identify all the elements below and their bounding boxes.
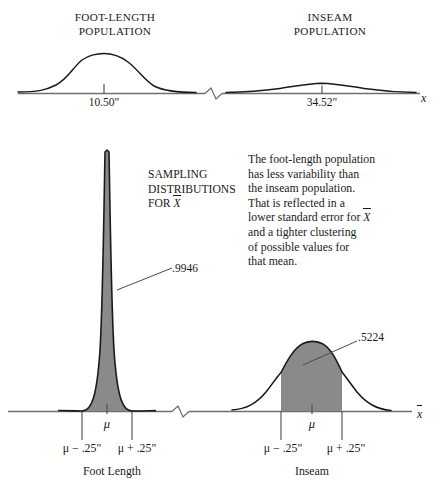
foot-length-population-mean-label: 10.50" <box>74 96 134 108</box>
foot-length-caption: Foot Length <box>62 464 162 479</box>
left-probability-leader-line <box>117 268 172 290</box>
top-axis-variable-label: x <box>421 91 426 106</box>
inseam-population-mean-label: 34.52" <box>292 96 352 108</box>
foot-length-population-title: FOOT-LENGTH POPULATION <box>55 10 175 38</box>
sampling-distributions-label: SAMPLING DISTRIBUTIONS FOR X <box>148 168 248 212</box>
bottom-axis-variable-label: x <box>417 407 422 422</box>
foot-length-mu-label: μ <box>92 417 122 432</box>
sampling-distributions-text: SAMPLING DISTRIBUTIONS FOR <box>148 168 236 210</box>
explanatory-note-xbar: X <box>363 210 370 225</box>
inseam-population-title: INSEAM POPULATION <box>270 10 390 38</box>
inseam-probability-label: .5224 <box>358 331 384 343</box>
top-panel-group <box>18 54 420 100</box>
inseam-population-curve <box>226 83 416 92</box>
foot-length-population-curve <box>18 54 196 93</box>
sampling-distributions-xbar: X <box>173 197 180 212</box>
inseam-caption: Inseam <box>272 464 352 479</box>
explanatory-note: The foot-length population has less vari… <box>248 152 433 269</box>
explanatory-note-tail: and a tighter clustering of possible val… <box>248 225 356 268</box>
foot-length-upper-bound-label: μ + .25" <box>97 441 177 456</box>
foot-length-probability-label: .9946 <box>172 262 198 274</box>
bottom-axis-break-icon <box>172 406 189 417</box>
inseam-upper-bound-label: μ + .25" <box>306 441 386 456</box>
explanatory-note-text: The foot-length population has less vari… <box>248 152 375 224</box>
foot-length-sampling-shaded-area <box>82 150 132 411</box>
inseam-mu-label: μ <box>297 417 327 432</box>
top-axis-break-icon <box>205 88 222 99</box>
